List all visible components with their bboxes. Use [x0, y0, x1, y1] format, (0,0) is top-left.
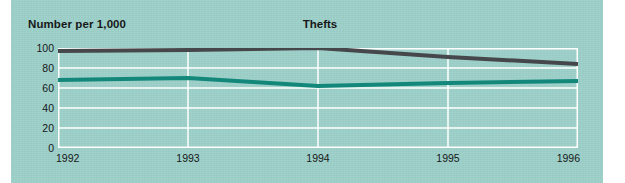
- plot-area: [58, 48, 578, 148]
- x-tick-label: 1995: [426, 152, 470, 165]
- y-tick-label: 20: [24, 123, 54, 134]
- y-tick-label: 40: [24, 103, 54, 114]
- x-tick-label: 1993: [166, 152, 210, 165]
- chart-screenshot: Number per 1,000 Thefts 020406080100 199…: [0, 0, 625, 183]
- y-tick-label: 100: [24, 43, 54, 54]
- y-tick-label: 60: [24, 83, 54, 94]
- y-tick-label: 80: [24, 63, 54, 74]
- x-tick-label: 1994: [296, 152, 340, 165]
- x-axis-tick-labels: 19921993199419951996: [58, 152, 578, 168]
- y-tick-label: 0: [24, 143, 54, 154]
- x-tick-label: 1996: [536, 152, 580, 165]
- x-tick-label: 1992: [56, 152, 100, 165]
- chart-title: Thefts: [285, 18, 355, 30]
- plot-svg: [58, 48, 578, 148]
- y-axis-caption: Number per 1,000: [28, 18, 126, 30]
- y-axis-tick-labels: 020406080100: [22, 48, 54, 148]
